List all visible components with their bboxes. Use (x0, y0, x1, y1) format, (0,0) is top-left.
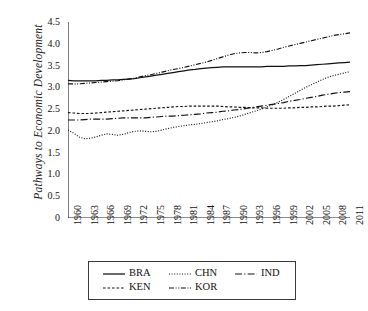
x-tick-label: 2008 (337, 205, 348, 225)
legend-label-kor: KOR (195, 281, 217, 292)
x-tick-label: 1969 (122, 205, 133, 225)
x-tick-label: 1987 (221, 205, 232, 225)
x-tick-label: 1996 (271, 205, 282, 225)
legend-label-bra: BRA (129, 267, 151, 278)
y-tick-label: 1.0 (26, 168, 60, 179)
legend-label-chn: CHN (195, 267, 217, 278)
x-tick-label: 1972 (138, 205, 149, 225)
x-tick-label: 1963 (89, 205, 100, 225)
legend-label-ken: KEN (129, 281, 151, 292)
y-tick-label: 4.0 (26, 38, 60, 49)
x-tick-label: 1966 (105, 205, 116, 225)
x-tick-label: 2005 (321, 205, 332, 225)
y-tick-label: 2.0 (26, 125, 60, 136)
y-tick-label: 3.0 (26, 81, 60, 92)
y-tick-label: 1.5 (26, 147, 60, 158)
series-line-ken (68, 105, 350, 114)
x-tick-label: 1984 (205, 205, 216, 225)
x-tick-label: 2011 (354, 205, 365, 225)
y-tick-label: 2.5 (26, 103, 60, 114)
x-tick-label: 1999 (288, 205, 299, 225)
y-tick-label: 0.5 (26, 190, 60, 201)
x-tick-label: 1981 (188, 205, 199, 225)
x-tick-label: 1960 (72, 205, 83, 225)
chart-figure: Pathways to Economic Development 00.51.0… (0, 0, 368, 311)
y-tick-label: 3.5 (26, 60, 60, 71)
legend-label-ind: IND (261, 267, 280, 278)
series-line-bra (68, 62, 350, 81)
y-tick-label: 4.5 (26, 16, 60, 27)
x-tick-label: 1975 (155, 205, 166, 225)
series-line-kor (68, 33, 350, 84)
chart-legend: BRACHNINDKENKOR (88, 261, 296, 300)
x-tick-label: 1990 (238, 205, 249, 225)
x-tick-label: 2002 (304, 205, 315, 225)
plot-svg (68, 22, 350, 218)
x-tick-label: 1993 (254, 205, 265, 225)
plot-area (68, 22, 350, 218)
y-tick-label: 0 (26, 212, 60, 223)
x-tick-label: 1978 (172, 205, 183, 225)
